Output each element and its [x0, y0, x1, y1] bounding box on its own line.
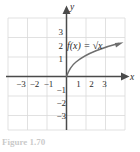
xtick-label-3: 3	[102, 79, 107, 89]
ytick-label-2: 2	[59, 41, 64, 51]
y-axis-tick-labels: 3 2 1 −1 −2 −3	[56, 27, 66, 122]
xtick-label-neg2: −2	[30, 79, 40, 89]
ytick-label-1: 1	[59, 54, 64, 64]
ytick-label-neg3: −3	[56, 111, 66, 121]
coordinate-plane: −3 −2 −1 1 2 3 3 2 1 −1 −2 −3 x y f(x) =…	[0, 0, 140, 136]
figure-caption: Figure 1.70	[0, 136, 140, 152]
xtick-label-neg1: −1	[44, 79, 54, 89]
y-axis-label: y	[69, 2, 75, 12]
figure-container: −3 −2 −1 1 2 3 3 2 1 −1 −2 −3 x y f(x) =…	[0, 0, 140, 152]
figure-caption-text: Figure 1.70	[2, 137, 45, 147]
function-label-text: f(x) = √x	[67, 40, 103, 52]
x-axis-label: x	[129, 72, 135, 82]
function-label: f(x) = √x	[67, 40, 103, 52]
ytick-label-neg1: −1	[56, 85, 66, 95]
ytick-label-neg2: −2	[56, 98, 66, 108]
xtick-label-neg3: −3	[16, 79, 26, 89]
graph-svg: −3 −2 −1 1 2 3 3 2 1 −1 −2 −3 x y f(x) =…	[0, 0, 140, 136]
ytick-label-3: 3	[59, 27, 64, 37]
xtick-label-2: 2	[89, 79, 94, 89]
xtick-label-1: 1	[76, 79, 81, 89]
